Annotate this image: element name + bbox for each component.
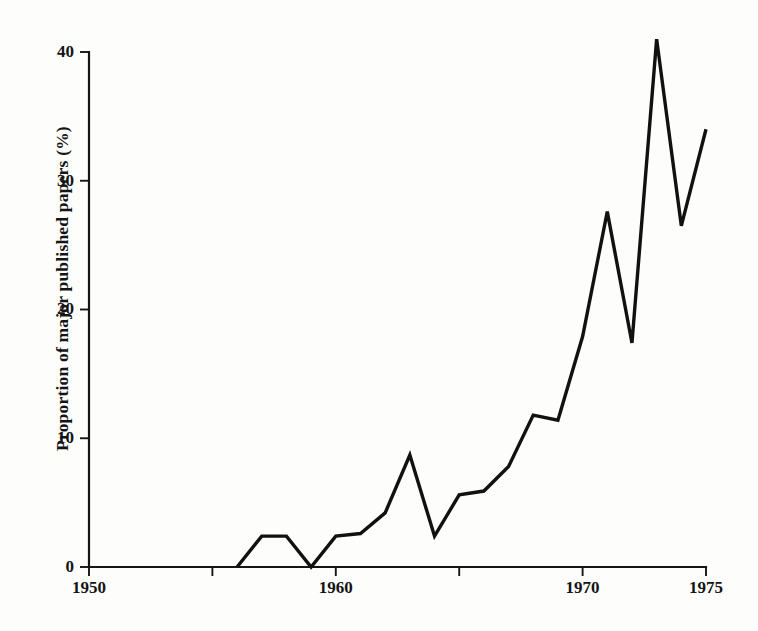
data-series-line [237, 39, 706, 567]
x-tick-label: 1970 [566, 578, 600, 597]
x-tick-label: 1950 [72, 578, 106, 597]
y-tick-label: 20 [57, 299, 74, 318]
y-tick-label: 10 [57, 428, 74, 447]
y-tick-label: 0 [66, 557, 75, 576]
y-tick-label: 30 [57, 171, 74, 190]
y-axis-ticks: 010203040 [57, 42, 89, 576]
chart-figure: 010203040 1950196019701975 Proportion of… [0, 0, 758, 631]
x-axis-ticks: 1950196019701975 [72, 567, 723, 597]
x-tick-label: 1975 [689, 578, 723, 597]
x-tick-label: 1960 [319, 578, 353, 597]
y-tick-label: 40 [57, 42, 74, 61]
line-chart-canvas: 010203040 1950196019701975 [0, 0, 758, 631]
